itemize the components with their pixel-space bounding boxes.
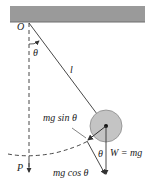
angle-arc-top (29, 41, 39, 44)
label-radial: mg cos θ (53, 167, 89, 178)
string (29, 23, 106, 126)
pendulum-diagram: O θ l mg sin θ θ W = mg mg cos θ P (0, 0, 153, 183)
label-angle-bottom: θ (98, 148, 103, 159)
label-tangential: mg sin θ (43, 112, 77, 123)
swing-arc (8, 141, 88, 156)
label-weight: W = mg (110, 147, 142, 158)
label-length: l (70, 64, 73, 75)
label-pivot: O (17, 21, 24, 32)
ceiling (10, 6, 145, 22)
label-equilibrium: P (16, 162, 23, 173)
label-angle-top: θ (33, 47, 38, 58)
